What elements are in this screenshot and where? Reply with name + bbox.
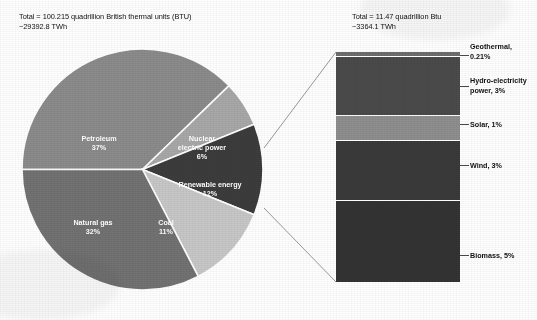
- pie-chart: Petroleum37%Nuclearelectric power6%Renew…: [21, 48, 264, 291]
- figure-root: Total = 100.215 quadrillion British ther…: [0, 0, 537, 320]
- bar-label-hydro-electricity-power: Hydro-electricity power, 3%: [470, 76, 527, 95]
- bar-tick-solar: [460, 124, 469, 125]
- bar-tick-hydro-electricity-power: [460, 86, 469, 87]
- pie-svg: Petroleum37%Nuclearelectric power6%Renew…: [21, 48, 264, 291]
- bar-segment-biomass: [336, 201, 460, 282]
- main-total-caption: Total = 100.215 quadrillion British ther…: [19, 12, 191, 32]
- bar-segment-solar: [336, 116, 460, 140]
- bar-segment-wind: [336, 141, 460, 202]
- bar-segment-hydro-electricity-power: [336, 57, 460, 117]
- bar-tick-biomass: [460, 255, 469, 256]
- bar-tick-geothermal: [460, 55, 469, 56]
- bar-label-geothermal: Geothermal, 0.21%: [470, 42, 512, 61]
- bar-tick-wind: [460, 165, 469, 166]
- pie-label-coal: Coal11%: [158, 218, 174, 236]
- bar-label-biomass: Biomass, 5%: [470, 251, 514, 261]
- bar-label-solar: Solar, 1%: [470, 120, 502, 130]
- renewable-breakout-bar: [336, 52, 460, 282]
- bar-label-wind: Wind, 3%: [470, 161, 502, 171]
- breakout-total-caption: Total = 11.47 quadrillion Btu ~3364.1 TW…: [352, 12, 441, 32]
- pie-slices: [22, 49, 263, 290]
